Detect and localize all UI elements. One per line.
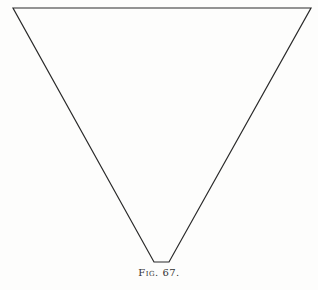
figure-caption: Fig. 67. bbox=[0, 267, 318, 278]
caption-number: 67. bbox=[162, 267, 179, 278]
truncated-triangle-diagram bbox=[0, 0, 318, 290]
figure: Fig. 67. bbox=[0, 0, 318, 290]
caption-label: Fig. bbox=[138, 267, 158, 278]
truncated-triangle-outline bbox=[13, 8, 311, 262]
